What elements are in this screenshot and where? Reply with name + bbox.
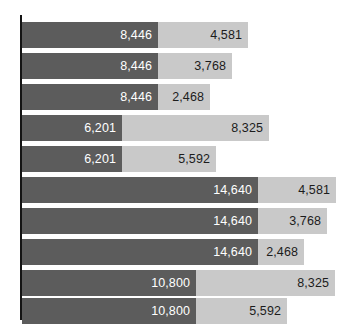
bar-segment-extension: 2,468 (158, 84, 210, 110)
bar-segment-base-label: 8,446 (120, 53, 158, 79)
plot-area: 8,4464,5818,4463,7688,4462,4686,2018,325… (22, 0, 352, 329)
bar-segment-base: 10,800 (22, 298, 196, 324)
bar-segment-extension-label: 8,325 (297, 270, 335, 296)
bar-segment-extension-label: 2,468 (172, 84, 210, 110)
bar-segment-base-label: 14,640 (213, 208, 258, 234)
bar-row: 8,4463,768 (22, 53, 232, 79)
stacked-bar-chart: 8,4464,5818,4463,7688,4462,4686,2018,325… (0, 0, 352, 329)
bar-segment-base: 6,201 (22, 115, 122, 141)
bar-segment-base-label: 10,800 (151, 270, 196, 296)
bar-segment-base: 6,201 (22, 146, 122, 172)
bar-segment-extension-label: 3,768 (289, 208, 327, 234)
bar-segment-base-label: 14,640 (213, 177, 258, 203)
bar-segment-base: 8,446 (22, 22, 158, 48)
bar-row: 10,8005,592 (22, 298, 287, 324)
bar-row: 8,4464,581 (22, 22, 248, 48)
bar-row: 10,8008,325 (22, 270, 335, 296)
bar-segment-extension-label: 2,468 (266, 239, 304, 265)
bar-segment-extension-label: 5,592 (178, 146, 216, 172)
bar-row: 14,6402,468 (22, 239, 304, 265)
bar-segment-extension: 8,325 (196, 270, 335, 296)
bar-segment-extension: 5,592 (196, 298, 287, 324)
bar-segment-extension-label: 4,581 (298, 177, 336, 203)
bar-segment-extension: 2,468 (258, 239, 304, 265)
bar-segment-extension-label: 4,581 (210, 22, 248, 48)
bar-row: 14,6403,768 (22, 208, 327, 234)
bar-segment-extension: 8,325 (122, 115, 269, 141)
bar-segment-base: 14,640 (22, 208, 258, 234)
bar-segment-base-label: 6,201 (84, 146, 122, 172)
bar-segment-extension: 3,768 (258, 208, 327, 234)
bar-row: 6,2018,325 (22, 115, 269, 141)
bar-segment-base-label: 6,201 (84, 115, 122, 141)
bar-segment-base-label: 14,640 (213, 239, 258, 265)
bar-row: 6,2015,592 (22, 146, 216, 172)
bar-segment-base-label: 8,446 (120, 22, 158, 48)
bar-segment-base-label: 10,800 (151, 298, 196, 324)
bar-segment-base: 8,446 (22, 53, 158, 79)
bar-segment-extension: 3,768 (158, 53, 232, 79)
bar-segment-base: 8,446 (22, 84, 158, 110)
bar-segment-base: 10,800 (22, 270, 196, 296)
bar-segment-base-label: 8,446 (120, 84, 158, 110)
bar-segment-extension-label: 3,768 (194, 53, 232, 79)
bar-segment-extension: 5,592 (122, 146, 216, 172)
bar-row: 14,6404,581 (22, 177, 336, 203)
bar-row: 8,4462,468 (22, 84, 210, 110)
bar-segment-extension-label: 8,325 (231, 115, 269, 141)
bar-segment-extension-label: 5,592 (249, 298, 287, 324)
bar-segment-base: 14,640 (22, 177, 258, 203)
bar-segment-extension: 4,581 (158, 22, 248, 48)
bar-segment-extension: 4,581 (258, 177, 336, 203)
bar-segment-base: 14,640 (22, 239, 258, 265)
